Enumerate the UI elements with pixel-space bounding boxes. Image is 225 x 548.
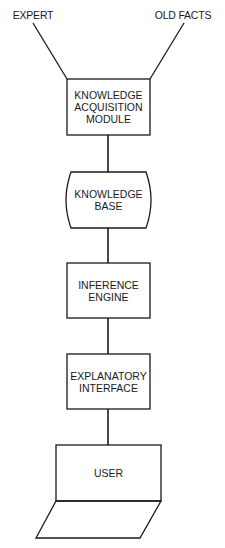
edge-oldfacts-to-acquisition [150,23,184,79]
knowledge-acquisition-label: KNOWLEDGE ACQUISITION MODULE [67,79,150,135]
user-terminal-keyboard [36,501,161,538]
knowledge-base-label: KNOWLEDGE BASE [67,172,150,228]
explanatory-interface-label: EXPLANATORY INTERFACE [67,354,150,409]
edge-expert-to-acquisition [33,23,67,79]
old-facts-label: OLD FACTS [152,9,214,21]
expert-label: EXPERT [12,9,54,21]
inference-engine-label: INFERENCE ENGINE [67,263,150,318]
user-label: USER [56,445,161,501]
